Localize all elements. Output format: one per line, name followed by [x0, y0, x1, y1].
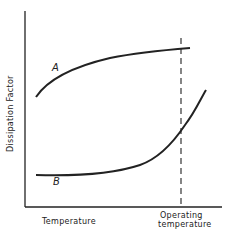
- chart-plot: [0, 0, 237, 234]
- curve-b-label: B: [53, 176, 60, 187]
- x-axis-label: Temperature: [42, 217, 96, 226]
- operating-label-line2: temperature: [158, 220, 212, 229]
- curve-a: [36, 48, 190, 97]
- curve-a-label: A: [52, 62, 59, 73]
- y-axis-label: Dissipation Factor: [6, 75, 15, 152]
- operating-label-line1: Operating: [160, 211, 203, 220]
